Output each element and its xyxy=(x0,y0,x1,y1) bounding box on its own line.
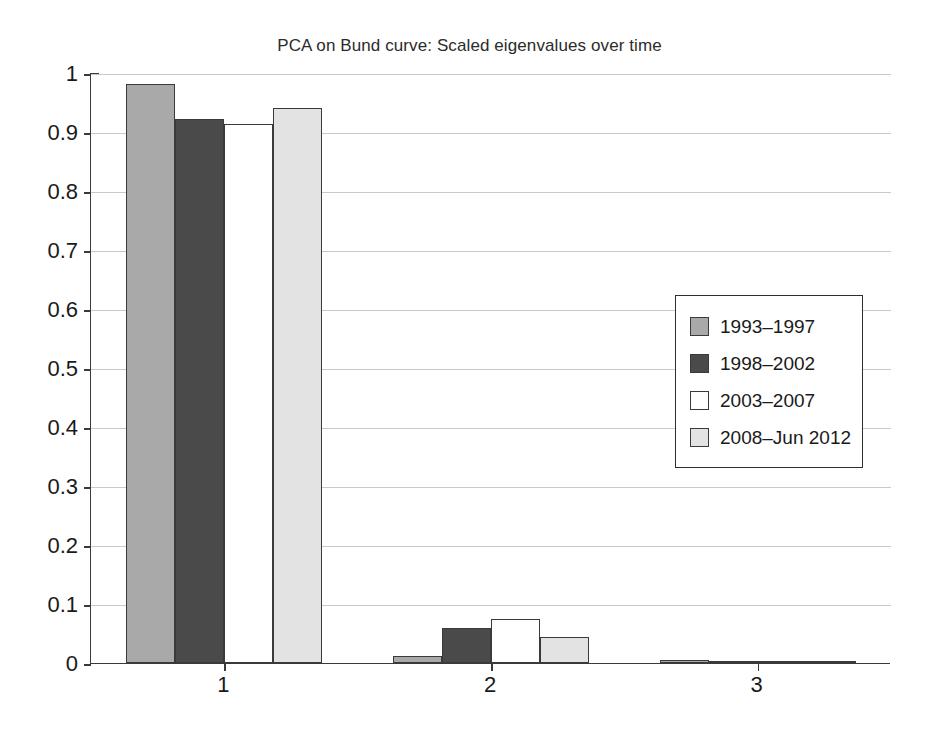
y-axis-tick xyxy=(84,74,91,76)
bar xyxy=(709,661,758,663)
legend-item-label: 2003–2007 xyxy=(720,390,815,412)
y-axis-tick-label: 0.9 xyxy=(14,120,78,146)
bar xyxy=(540,637,589,663)
y-axis-tick-label: 0.5 xyxy=(14,356,78,382)
chart-title: PCA on Bund curve: Scaled eigenvalues ov… xyxy=(0,36,939,56)
bar xyxy=(175,119,224,663)
chart-figure: PCA on Bund curve: Scaled eigenvalues ov… xyxy=(0,0,939,744)
bar xyxy=(442,628,491,663)
y-axis-tick-label: 0.1 xyxy=(14,592,78,618)
legend-item[interactable]: 1998–2002 xyxy=(690,345,862,382)
y-axis-tick xyxy=(84,133,91,135)
gridline xyxy=(91,74,891,75)
bar xyxy=(126,84,175,663)
legend-item-label: 1998–2002 xyxy=(720,353,815,375)
y-axis-tick xyxy=(84,428,91,430)
legend-item[interactable]: 2008–Jun 2012 xyxy=(690,419,862,456)
y-axis-tick-label: 0 xyxy=(14,651,78,677)
bar xyxy=(491,619,540,663)
x-axis-tick-label: 3 xyxy=(722,672,792,698)
legend-item[interactable]: 2003–2007 xyxy=(690,382,862,419)
bar xyxy=(273,108,322,663)
y-axis-tick-label: 1 xyxy=(14,61,78,87)
legend-swatch-icon xyxy=(690,317,709,336)
legend-swatch-icon xyxy=(690,354,709,373)
y-axis-tick-label: 0.8 xyxy=(14,179,78,205)
y-axis-tick xyxy=(84,664,91,666)
y-axis-tick xyxy=(84,487,91,489)
legend-item-label: 2008–Jun 2012 xyxy=(720,427,851,449)
y-axis-tick xyxy=(84,546,91,548)
bar xyxy=(807,661,856,663)
y-axis-tick xyxy=(84,310,91,312)
y-axis-tick-label: 0.7 xyxy=(14,238,78,264)
bar xyxy=(393,656,442,663)
x-axis-tick-label: 2 xyxy=(455,672,525,698)
y-axis-tick xyxy=(84,192,91,194)
bar xyxy=(224,124,273,663)
legend-item[interactable]: 1993–1997 xyxy=(690,308,862,345)
y-axis-tick xyxy=(84,251,91,253)
bar xyxy=(660,660,709,663)
y-axis-tick-label: 0.4 xyxy=(14,415,78,441)
chart-legend: 1993–19971998–20022003–20072008–Jun 2012 xyxy=(675,295,863,468)
y-axis-tick-label: 0.6 xyxy=(14,297,78,323)
legend-swatch-icon xyxy=(690,428,709,447)
x-axis-tick xyxy=(491,663,493,671)
bar xyxy=(758,661,807,663)
y-axis-tick-label: 0.2 xyxy=(14,533,78,559)
legend-swatch-icon xyxy=(690,391,709,410)
x-axis-tick-label: 1 xyxy=(188,672,258,698)
x-axis-tick xyxy=(758,663,760,671)
legend-item-label: 1993–1997 xyxy=(720,316,815,338)
y-axis-tick-label: 0.3 xyxy=(14,474,78,500)
x-axis-tick xyxy=(224,663,226,671)
y-axis-tick xyxy=(84,605,91,607)
y-axis-tick xyxy=(84,369,91,371)
